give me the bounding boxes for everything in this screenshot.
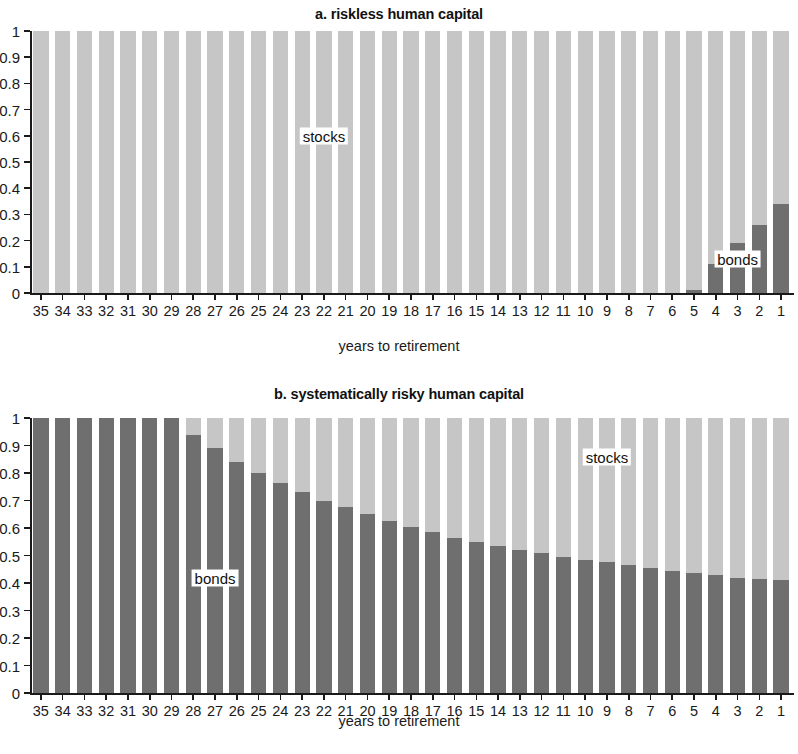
bar-segment-bonds [142, 418, 157, 693]
stacked-bar [55, 31, 70, 293]
x-axis-tick-label: 29 [163, 304, 179, 319]
y-axis-tick-label: 0.5 [0, 155, 20, 170]
bar-segment-bonds [686, 573, 701, 693]
y-axis-tick [24, 472, 30, 474]
x-axis-tick [519, 294, 521, 300]
x-axis-tick [127, 694, 129, 700]
bar-segment-stocks [425, 418, 440, 532]
stacked-bar [403, 31, 418, 293]
bar-segment-bonds [360, 514, 375, 693]
stacked-bar [665, 418, 680, 693]
stacked-bar [186, 31, 201, 293]
bar-segment-bonds [665, 571, 680, 693]
bar-segment-stocks [469, 31, 484, 293]
stacked-bar [164, 418, 179, 693]
stacked-bar [164, 31, 179, 293]
stacked-bar [534, 31, 549, 293]
x-axis-tick [149, 694, 151, 700]
x-axis-tick [759, 694, 761, 700]
bar-segment-stocks [403, 31, 418, 293]
y-axis-tick [24, 240, 30, 242]
y-axis-tick-label: 0 [12, 286, 20, 301]
bar-segment-bonds [382, 521, 397, 693]
bar-segment-stocks [142, 31, 157, 293]
x-axis-tick [432, 294, 434, 300]
x-axis-tick [759, 294, 761, 300]
bar-segment-bonds [447, 538, 462, 693]
x-axis-tick-label: 7 [646, 304, 654, 319]
bar-segment-stocks [578, 31, 593, 293]
x-axis-tick-label: 21 [338, 304, 354, 319]
x-axis-line [30, 693, 794, 695]
x-axis-tick [780, 294, 782, 300]
x-axis-tick [584, 694, 586, 700]
bar-segment-stocks [512, 31, 527, 293]
stacked-bar [425, 418, 440, 693]
stacked-bar [599, 31, 614, 293]
x-axis-tick [345, 694, 347, 700]
y-axis-tick-label: 0.1 [0, 259, 20, 274]
stacked-bar [686, 418, 701, 693]
bar-segment-bonds [708, 264, 723, 293]
x-axis-tick [476, 294, 478, 300]
bar-segment-bonds [490, 546, 505, 693]
x-axis-tick [127, 294, 129, 300]
y-axis-tick [24, 500, 30, 502]
bar-segment-stocks [316, 418, 331, 501]
bar-segment-bonds [599, 562, 614, 693]
stacked-bar [120, 418, 135, 693]
x-axis-tick [345, 294, 347, 300]
x-axis-tick [149, 294, 151, 300]
x-axis-tick [301, 694, 303, 700]
bar-segment-bonds [578, 560, 593, 693]
series-annotation-bonds: bonds [714, 250, 761, 267]
y-axis-tick [24, 555, 30, 557]
bar-segment-stocks [621, 31, 636, 293]
x-axis-tick [671, 294, 673, 300]
bar-segment-bonds [512, 550, 527, 693]
x-axis-tick-label: 10 [577, 304, 593, 319]
bar-segment-bonds [621, 565, 636, 693]
x-axis-tick-label: 2 [755, 304, 763, 319]
bar-segment-stocks [643, 31, 658, 293]
stacked-bar [33, 418, 48, 693]
x-axis-tick-label: 27 [207, 304, 223, 319]
bar-segment-stocks [730, 31, 745, 243]
stacked-bar [556, 31, 571, 293]
x-axis-tick [541, 294, 543, 300]
y-axis-tick-label: 0.6 [0, 128, 20, 143]
stacked-bar [447, 418, 462, 693]
panel-a-plot: 00.10.20.30.40.50.60.70.80.9135343332313… [0, 0, 798, 380]
x-axis-tick [388, 294, 390, 300]
stacked-bar [99, 418, 114, 693]
y-axis-tick [24, 527, 30, 529]
stacked-bar [773, 31, 788, 293]
panel-riskless-human-capital: a. riskless human capital 00.10.20.30.40… [0, 0, 798, 380]
x-axis-tick-label: 30 [142, 304, 158, 319]
bar-segment-stocks [382, 418, 397, 521]
bar-segment-stocks [251, 418, 266, 473]
x-axis-tick [497, 294, 499, 300]
x-axis-tick-label: 28 [185, 304, 201, 319]
x-axis-tick [650, 294, 652, 300]
x-axis-tick [432, 694, 434, 700]
x-axis-tick [454, 694, 456, 700]
bar-segment-stocks [338, 31, 353, 293]
stacked-bar [708, 418, 723, 693]
y-axis-tick [24, 665, 30, 667]
y-axis-tick [24, 187, 30, 189]
y-axis-tick [24, 445, 30, 447]
x-axis-tick [40, 294, 42, 300]
stacked-bar [773, 418, 788, 693]
stacked-bar [665, 31, 680, 293]
stacked-bar [316, 31, 331, 293]
bar-segment-stocks [77, 31, 92, 293]
stacked-bar [643, 418, 658, 693]
bar-segment-bonds [77, 418, 92, 693]
x-axis-tick [606, 694, 608, 700]
y-axis-tick [24, 30, 30, 32]
x-axis-tick [105, 694, 107, 700]
stacked-bar [295, 31, 310, 293]
bar-segment-bonds [186, 435, 201, 694]
x-axis-tick [236, 294, 238, 300]
